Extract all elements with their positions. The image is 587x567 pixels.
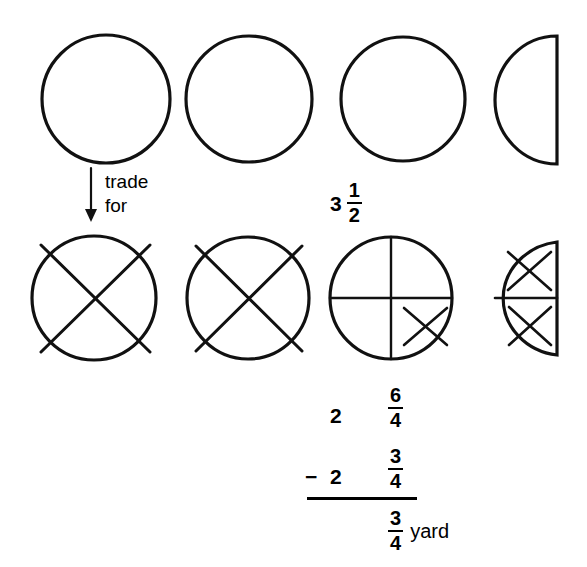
- circle-models-svg: [0, 0, 587, 567]
- result-numerator: 3: [388, 508, 403, 529]
- minuend-whole-wrap: 2: [330, 405, 342, 426]
- whole-circle-3: [341, 37, 465, 161]
- top-row-fraction: 1 2: [347, 180, 362, 226]
- top-row-whole: 3: [330, 193, 342, 214]
- trade-label-line2: for: [105, 196, 127, 215]
- half-circle-quartered-4-lower-x: [509, 307, 551, 345]
- minuend-whole: 2: [330, 404, 342, 427]
- minuend-denominator: 4: [388, 410, 403, 431]
- whole-circle-2: [186, 36, 312, 162]
- trade-label-line1: trade: [105, 172, 148, 191]
- trade-arrow: [85, 168, 97, 222]
- subtraction-operator-wrap: −: [305, 466, 317, 487]
- subtrahend-denominator: 4: [388, 471, 403, 492]
- half-circle-4: [495, 36, 557, 164]
- subtrahend-whole: 2: [330, 465, 342, 488]
- minuend-numerator: 6: [388, 385, 403, 406]
- half-circle-quartered-4-upper-x: [508, 252, 551, 290]
- subtrahend-fraction: 3 4: [388, 446, 403, 492]
- whole-circle-1: [42, 35, 170, 163]
- minuend-fraction: 6 4: [388, 385, 403, 431]
- figure-canvas: trade for 3 1 2 2 6 4 − 2 3 4: [0, 0, 587, 567]
- crossed-circle-1-x: [41, 245, 150, 352]
- top-row-value: 3 1 2: [330, 180, 362, 226]
- subtraction-operator: −: [305, 465, 317, 488]
- result-unit: yard: [410, 521, 449, 541]
- quartered-circle-3-quarter-x: [404, 308, 447, 345]
- top-row-numerator: 1: [347, 180, 362, 201]
- subtrahend-whole-wrap: 2: [330, 466, 342, 487]
- arithmetic-rule: [307, 497, 417, 500]
- result-denominator: 4: [388, 533, 403, 554]
- result-row: 3 4 yard: [388, 508, 449, 554]
- subtrahend-numerator: 3: [388, 446, 403, 467]
- result-fraction: 3 4: [388, 508, 403, 554]
- top-row-denominator: 2: [347, 205, 362, 226]
- crossed-circle-2-x: [196, 246, 302, 351]
